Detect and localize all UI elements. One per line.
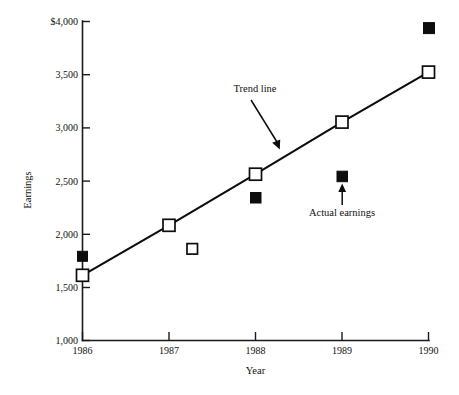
trend-marker-1990: [423, 66, 435, 78]
actual-earnings-annotation: Actual earnings: [309, 184, 375, 219]
earnings-chart: $4,000 3,500 3,000 2,500 2,000 1,500 1,0…: [0, 0, 459, 395]
y-tick-label-3500: 3,500: [56, 69, 79, 80]
y-tick-label-2000: 2,000: [56, 229, 79, 240]
x-axis-title: Year: [246, 365, 266, 376]
actual-earnings-arrow-head-icon: [338, 184, 346, 193]
trend-line-annotation-label: Trend line: [233, 83, 276, 94]
x-tick-label-1990: 1990: [419, 345, 439, 356]
x-tick-label-1988: 1988: [246, 345, 266, 356]
trend-marker-1988: [250, 168, 262, 180]
trend-marker-1989: [336, 116, 348, 128]
trend-line-markers: [77, 66, 435, 281]
trend-marker-1987: [163, 219, 175, 231]
y-axis-title: Earnings: [22, 171, 33, 208]
x-tick-label-1987: 1987: [159, 345, 179, 356]
x-tick-label-1989: 1989: [332, 345, 352, 356]
trend-marker-1986: [77, 269, 89, 281]
x-tick-label-1986: 1986: [73, 345, 93, 356]
actual-earnings-markers: [78, 23, 435, 262]
y-tick-label-1500: 1,500: [56, 282, 79, 293]
x-axis-ticks: [83, 332, 429, 341]
y-tick-label-2500: 2,500: [56, 176, 79, 187]
trend-line-annotation-arrow: [251, 100, 277, 142]
chart-canvas: $4,000 3,500 3,000 2,500 2,000 1,500 1,0…: [0, 0, 459, 395]
actual-marker-1988: [251, 193, 262, 204]
actual-marker-1986: [78, 251, 88, 261]
x-axis-tick-labels: 1986 1987 1988 1989 1990: [73, 345, 439, 356]
actual-earnings-annotation-label: Actual earnings: [309, 207, 375, 218]
y-tick-label-3000: 3,000: [56, 122, 79, 133]
actual-marker-1989: [337, 171, 348, 182]
y-tick-label-4000: $4,000: [51, 16, 79, 27]
actual-marker-1990: [424, 23, 435, 34]
trend-line-annotation: Trend line: [233, 83, 280, 150]
actual-marker-1987: [187, 244, 198, 255]
y-axis-ticks: [83, 22, 91, 341]
y-axis-tick-labels: $4,000 3,500 3,000 2,500 2,000 1,500 1,0…: [51, 16, 79, 346]
